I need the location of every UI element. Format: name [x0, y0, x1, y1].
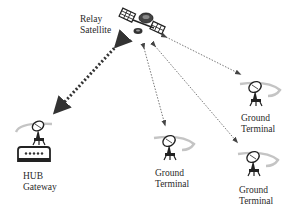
link-satellite-terminal-1	[144, 48, 165, 125]
ground-terminal-1-node	[152, 132, 196, 162]
ground-terminal-1-label: Ground Terminal	[155, 168, 189, 190]
label-line: Terminal	[241, 124, 275, 135]
label-line: Gateway	[23, 182, 57, 193]
gateway-modem-icon	[17, 146, 51, 162]
dish-antenna-icon	[236, 148, 280, 178]
label-line: Satellite	[80, 25, 111, 36]
ground-terminal-3-label: Ground Terminal	[239, 185, 273, 207]
dish-antenna-icon	[14, 118, 54, 146]
dish-antenna-icon	[152, 132, 196, 162]
link-satellite-hub	[59, 42, 120, 108]
label-line: Ground	[241, 113, 275, 124]
ground-terminal-2-label: Ground Terminal	[241, 113, 275, 135]
link-satellite-terminal-3	[155, 46, 237, 142]
label-line: Terminal	[239, 196, 273, 207]
dish-antenna-icon	[238, 78, 282, 108]
ground-terminal-2-node	[238, 78, 282, 108]
satellite-icon	[118, 6, 168, 40]
link-satellite-terminal-2	[166, 37, 240, 74]
hub-gateway-node	[14, 118, 54, 164]
label-line: Terminal	[155, 179, 189, 190]
hub-gateway-label: HUB Gateway	[23, 171, 57, 193]
label-line: HUB	[23, 171, 57, 182]
ground-terminal-3-node	[236, 148, 280, 178]
relay-satellite-node	[118, 6, 168, 40]
label-line: Relay	[80, 14, 111, 25]
relay-satellite-label: Relay Satellite	[80, 14, 111, 36]
label-line: Ground	[155, 168, 189, 179]
label-line: Ground	[239, 185, 273, 196]
